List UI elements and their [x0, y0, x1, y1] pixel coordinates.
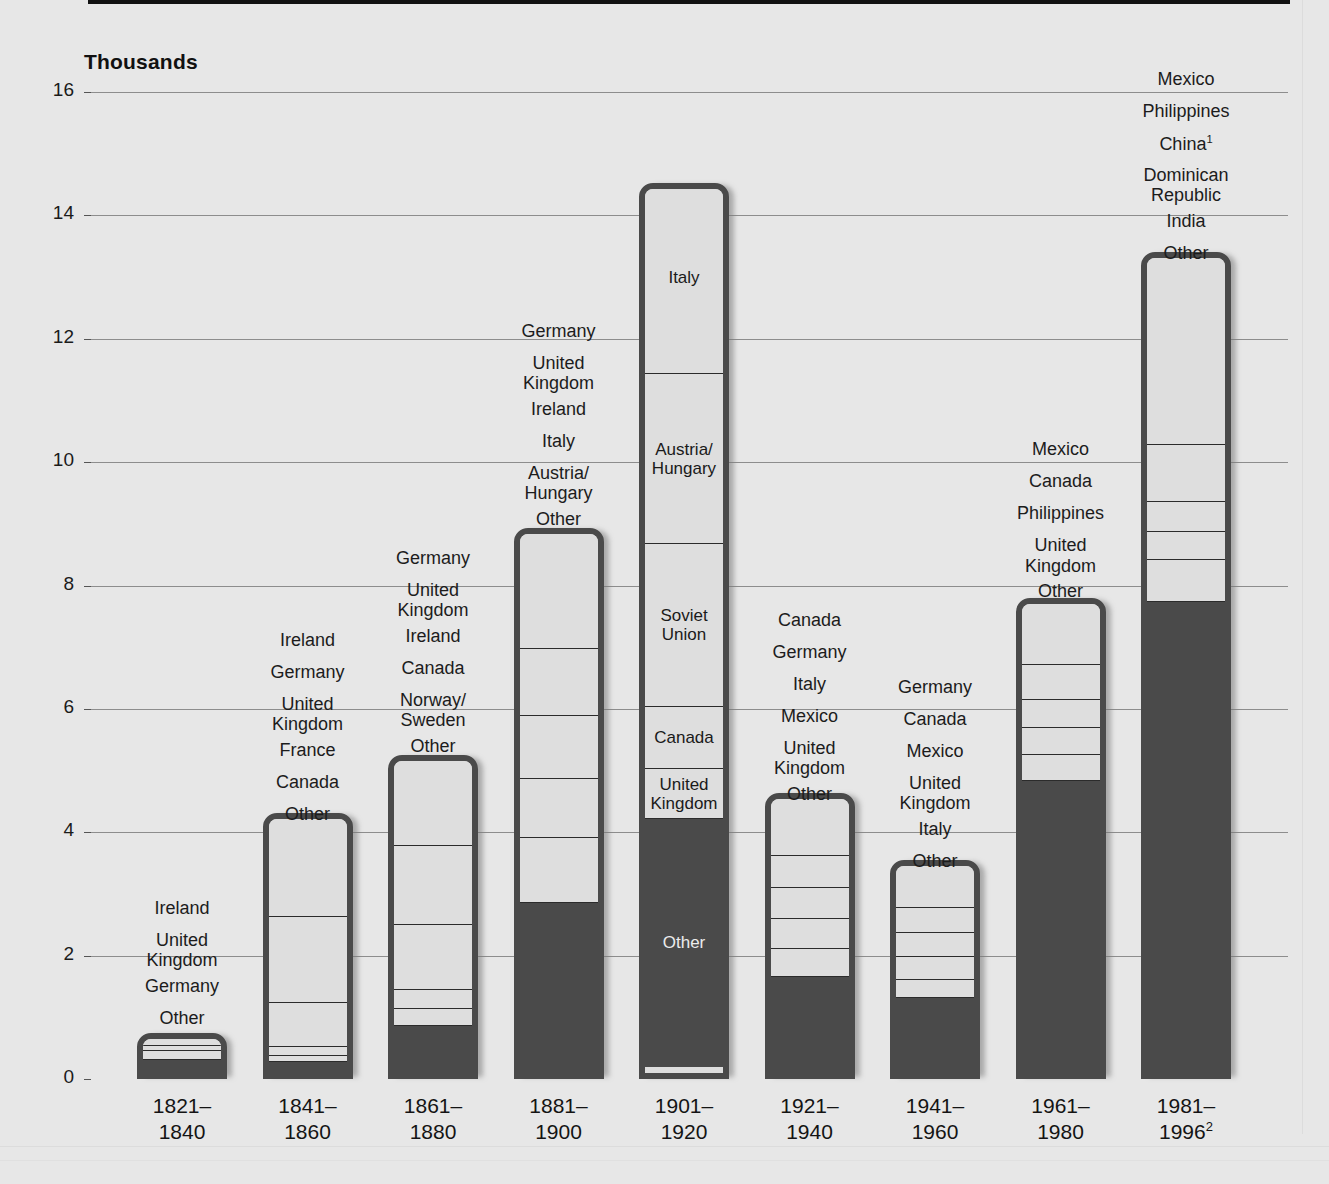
y-tick-mark-6: [84, 709, 91, 710]
figure-canvas: Thousands 0246810121416 ItalyAustria/ Hu…: [0, 0, 1329, 1184]
y-tick-mark-0: [84, 1079, 91, 1080]
bar-segment: [771, 919, 849, 949]
bar-callout-label: Germany: [459, 321, 659, 341]
bar-segment: [520, 838, 598, 902]
y-tick-mark-4: [84, 832, 91, 833]
bar-callout-label: United Kingdom: [333, 580, 533, 620]
bar-callout-label: Ireland: [333, 626, 533, 646]
bar-callout-label: United Kingdom: [835, 773, 1035, 813]
bar-callout-label: Other: [835, 851, 1035, 871]
y-tick-label-14: 14: [34, 202, 74, 224]
bar-callout-label: Austria/ Hungary: [459, 463, 659, 503]
bar-segment: [143, 1060, 221, 1079]
bar-segment: [896, 980, 974, 998]
bar-segment: [394, 925, 472, 990]
bar-segment: [1147, 252, 1225, 446]
bar-callout-label: Italy: [459, 431, 659, 451]
segment-label: Other: [645, 933, 723, 952]
bar-callout-label: China1: [1086, 133, 1286, 154]
bar-segment: Other: [645, 819, 723, 1067]
bar-segment: [1147, 602, 1225, 1079]
bar-segment: [896, 908, 974, 933]
y-tick-label-0: 0: [34, 1066, 74, 1088]
bar-callout-label: Other: [459, 509, 659, 529]
bar-segment: Italy: [645, 183, 723, 374]
bar-callout-label: United Kingdom: [961, 535, 1161, 575]
y-tick-label-12: 12: [34, 326, 74, 348]
bar-callout-label: Other: [333, 736, 533, 756]
bar-callout-label: Mexico: [1086, 69, 1286, 89]
bar-callout-label: Germany: [710, 642, 910, 662]
bar-callout-label: Germany: [333, 548, 533, 568]
x-axis-label: 1981–19962: [1096, 1093, 1276, 1144]
y-tick-label-8: 8: [34, 573, 74, 595]
bar-callout-label: Canada: [835, 709, 1035, 729]
bar-callout-label: Dominican Republic: [1086, 165, 1286, 205]
bar-segment: [394, 846, 472, 925]
bar-callout-label: Other: [82, 1008, 282, 1028]
y-tick-label-6: 6: [34, 696, 74, 718]
bar-segment: [520, 779, 598, 838]
bar-callout-label: Norway/ Sweden: [333, 690, 533, 730]
bar-callout-label: Canada: [208, 772, 408, 792]
bar-segment: [394, 1026, 472, 1079]
bar-callout-label: Mexico: [961, 439, 1161, 459]
bar-segment: [771, 888, 849, 919]
bar-segment: [394, 990, 472, 1010]
bar-1981-1996[interactable]: [1141, 252, 1231, 1079]
bar-1941-1960[interactable]: [890, 860, 980, 1079]
bar-callout-label: Mexico: [835, 741, 1035, 761]
bar-callout-label: Other: [1086, 243, 1286, 263]
bar-callout-label: Ireland: [459, 399, 659, 419]
bar-callout-label: Germany: [835, 677, 1035, 697]
bar-callout-label: Other: [961, 581, 1161, 601]
x-axis-baseline: [88, 0, 1290, 4]
y-axis-unit-title: Thousands: [84, 50, 198, 74]
y-tick-mark-12: [84, 339, 91, 340]
bar-callout-label: Other: [208, 804, 408, 824]
bar-segment: [896, 957, 974, 979]
segment-label: Italy: [645, 268, 723, 287]
bar-callout-label: Canada: [961, 471, 1161, 491]
gridline-16: [88, 92, 1288, 93]
y-tick-label-10: 10: [34, 449, 74, 471]
y-tick-label-2: 2: [34, 943, 74, 965]
bar-callout-label: Ireland: [82, 898, 282, 918]
bar-1821-1840[interactable]: [137, 1033, 227, 1079]
bar-segment: [143, 1033, 221, 1046]
bar-segment: [269, 1047, 347, 1056]
stacked-bar-chart: Thousands 0246810121416 ItalyAustria/ Hu…: [0, 0, 1329, 1184]
bar-segment: [394, 755, 472, 846]
bar-callout-label: India: [1086, 211, 1286, 231]
bar-callout-label: Germany: [82, 976, 282, 996]
bar-segment: [1022, 598, 1100, 665]
bar-callout-label: Canada: [333, 658, 533, 678]
y-tick-mark-14: [84, 215, 91, 216]
y-tick-mark-8: [84, 586, 91, 587]
y-tick-label-16: 16: [34, 79, 74, 101]
bar-segment: [269, 1062, 347, 1079]
bar-callout-label: Italy: [835, 819, 1035, 839]
y-tick-mark-16: [84, 92, 91, 93]
bar-segment: [771, 977, 849, 1079]
bar-callout-label: Philippines: [961, 503, 1161, 523]
bar-callout-label: United Kingdom: [459, 353, 659, 393]
bar-callout-label: United Kingdom: [82, 930, 282, 970]
bar-segment: [143, 1051, 221, 1060]
bar-callout-label: Canada: [710, 610, 910, 630]
bar-segment: [896, 933, 974, 957]
y-tick-label-4: 4: [34, 819, 74, 841]
bar-1901-1920[interactable]: ItalyAustria/ HungarySoviet UnionCanadaU…: [639, 183, 729, 1079]
bar-segment: [896, 998, 974, 1079]
bar-segment: [394, 1009, 472, 1026]
bar-segment: [520, 903, 598, 1079]
y-tick-mark-10: [84, 462, 91, 463]
bar-segment: [771, 949, 849, 977]
bar-callout-label: Philippines: [1086, 101, 1286, 121]
